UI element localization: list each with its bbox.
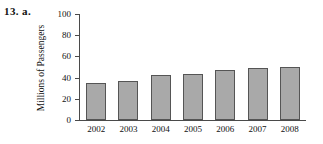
y-tick-label: 0 [67,115,72,125]
x-tick-label: 2002 [87,124,105,134]
y-tick-mark [75,14,80,15]
x-tick-label: 2005 [184,124,202,134]
y-axis-title-text: Millions of Passengers [36,25,46,112]
y-tick-mark [75,56,80,57]
y-tick-label: 60 [62,51,71,61]
bar-2005 [183,74,203,120]
y-tick-mark [75,120,80,121]
x-axis-line [79,120,306,121]
bar-2007 [248,68,268,120]
y-tick-label: 80 [62,30,71,40]
y-tick-label: 20 [62,94,71,104]
x-tick-label: 2007 [249,124,267,134]
problem-number-label: 13. a. [4,5,31,17]
x-tick-label: 2003 [119,124,137,134]
y-axis-line [79,14,80,120]
figure-bar-chart: 13. a. Millions of Passengers 0204060801… [0,0,323,144]
x-tick-label: 2008 [281,124,299,134]
x-tick-label: 2004 [152,124,170,134]
y-axis-title: Millions of Passengers [34,14,48,122]
bar-2004 [151,75,171,120]
y-tick-mark [75,99,80,100]
bar-2003 [118,81,138,120]
y-tick-mark [75,78,80,79]
bar-2008 [280,67,300,120]
x-tick-label: 2006 [216,124,234,134]
bar-2002 [86,83,106,120]
y-tick-label: 40 [62,73,71,83]
bar-2006 [215,70,235,120]
y-tick-label: 100 [58,9,72,19]
y-tick-mark [75,35,80,36]
plot-area: 020406080100 200220032004200520062007200… [80,14,306,120]
